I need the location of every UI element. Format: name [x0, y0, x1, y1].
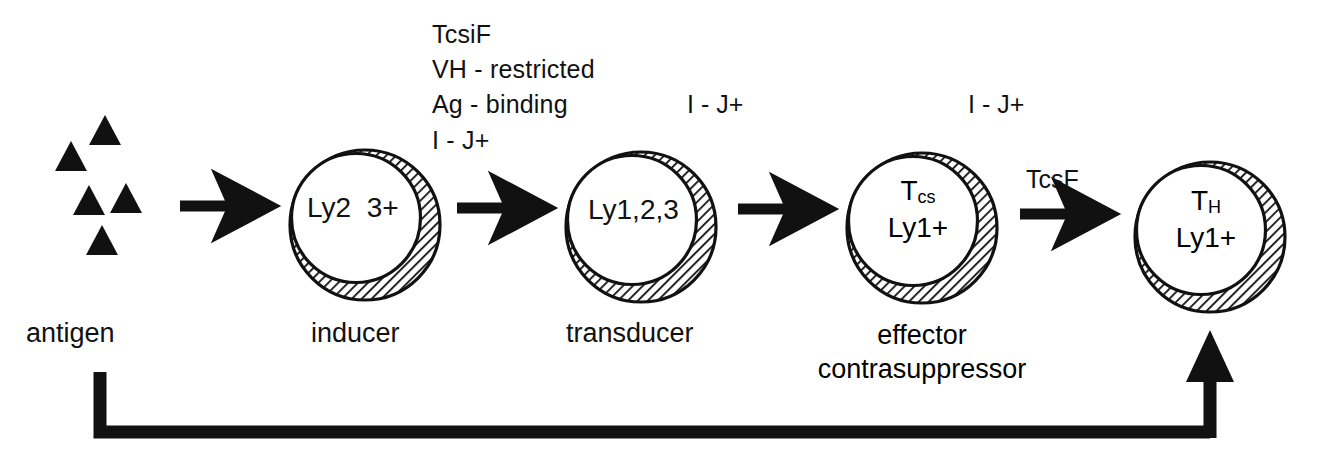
pathway-diagram: TcsiF VH - restricted Ag - binding I - J…: [0, 0, 1340, 462]
antigen-triangle: [86, 225, 118, 255]
annotation-line-vh-restricted: VH - restricted: [432, 55, 595, 84]
caption-antigen: antigen: [26, 318, 115, 349]
caption-transducer: transducer: [566, 318, 694, 349]
annotation-line-i-j-plus: I - J+: [432, 126, 489, 155]
antigen-marker-group: [55, 115, 142, 255]
cell-t-helper-label-line1: TH: [1136, 186, 1276, 222]
arrow-label-tcsf: TcsF: [1026, 165, 1079, 194]
antigen-triangle: [110, 183, 142, 213]
caption-effector-contrasuppressor: effector contrasuppressor: [782, 318, 1062, 386]
cell-inducer: [290, 150, 440, 300]
cell-transducer-label: Ly1,2,3: [588, 194, 679, 226]
annotation-line-tcsif: TcsiF: [432, 20, 491, 49]
cell-effector-label: Tcs Ly1+: [848, 176, 988, 244]
annotation-line-ag-binding: Ag - binding: [432, 90, 568, 119]
cell-transducer: [566, 152, 716, 302]
cell-t-helper-label-sub: H: [1208, 197, 1221, 217]
cell-t-helper-label-line2: Ly1+: [1136, 222, 1276, 254]
antigen-triangle: [73, 185, 105, 215]
antigen-triangle: [55, 141, 87, 171]
caption-inducer: inducer: [311, 318, 400, 349]
cell-inducer-label: Ly2 3+: [307, 192, 399, 224]
top-label-transducer: I - J+: [687, 90, 743, 119]
cell-effector-label-sub: cs: [918, 187, 936, 207]
caption-effector-line1: effector: [782, 318, 1062, 352]
antigen-triangle: [89, 115, 121, 145]
cell-effector-label-line1: Tcs: [848, 176, 988, 212]
cell-t-helper-label: TH Ly1+: [1136, 186, 1276, 254]
cell-effector-label-line2: Ly1+: [848, 212, 988, 244]
cell-effector-label-t: T: [900, 175, 917, 206]
caption-effector-line2: contrasuppressor: [782, 352, 1062, 386]
cell-t-helper-label-t: T: [1191, 185, 1208, 216]
top-label-effector: I - J+: [968, 90, 1024, 119]
